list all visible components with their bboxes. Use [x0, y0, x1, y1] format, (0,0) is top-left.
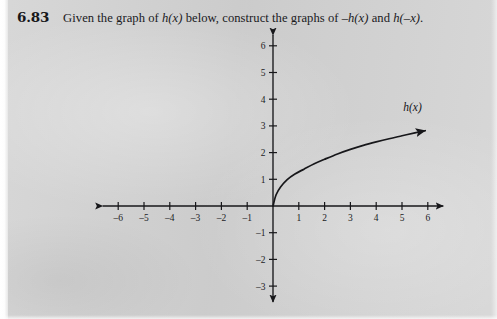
y-tick-label: –1	[255, 228, 266, 238]
x-tick-label: 1	[296, 213, 301, 223]
x-tick-label: –1	[241, 213, 252, 223]
x-tick-label: 4	[374, 213, 379, 223]
x-axis-tick-labels: –6–5–4–3–2–1123456	[112, 213, 430, 223]
y-axis-tick-labels: 654321–1–2–3	[255, 41, 266, 291]
page-canvas: 6.83 Given the graph of h(x) below, cons…	[0, 0, 497, 319]
y-tick-label: –3	[255, 282, 266, 292]
curve-label-h-of-x: h(x)	[403, 101, 422, 114]
x-tick-label: 6	[425, 213, 430, 223]
function-curve-group: h(x)	[273, 101, 425, 206]
y-tick-label: 1	[261, 175, 266, 185]
y-tick-label: 6	[261, 41, 266, 51]
y-tick-label: 4	[261, 95, 266, 105]
y-tick-label: 2	[261, 148, 266, 158]
x-tick-label: 5	[400, 213, 405, 223]
x-tick-label: –6	[112, 213, 123, 223]
y-tick-label: 3	[261, 121, 266, 131]
x-tick-label: –5	[138, 213, 149, 223]
x-tick-label: 2	[322, 213, 327, 223]
x-tick-label: 3	[348, 213, 353, 223]
axes	[103, 35, 444, 302]
x-tick-label: –2	[216, 213, 227, 223]
y-tick-label: –2	[255, 255, 266, 265]
x-tick-label: –3	[190, 213, 201, 223]
coordinate-plot: –6–5–4–3–2–1123456 654321–1–2–3 h(x)	[0, 0, 497, 319]
x-tick-label: –4	[164, 213, 175, 223]
y-tick-label: 5	[261, 68, 266, 78]
curve-h-of-x	[273, 131, 425, 206]
plot-svg: –6–5–4–3–2–1123456 654321–1–2–3 h(x)	[0, 0, 497, 319]
